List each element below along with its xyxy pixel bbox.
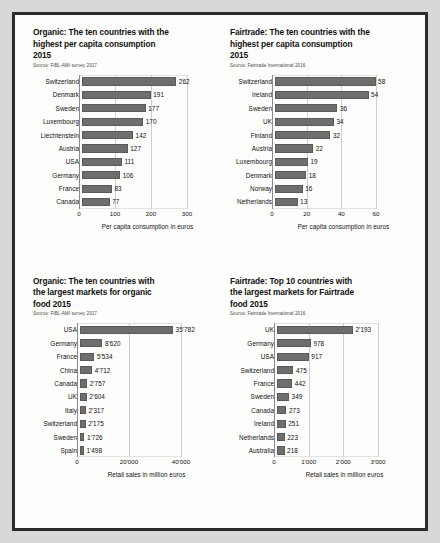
bar-value-label: 4'712 bbox=[92, 367, 110, 374]
bar bbox=[277, 366, 293, 374]
category-label: Norway bbox=[230, 185, 275, 192]
chart-title-line: Organic: The ten countries with the bbox=[33, 27, 216, 39]
bar-container: 978 bbox=[277, 337, 415, 350]
bar-row: Austria127 bbox=[33, 142, 216, 155]
bar-value-label: 170 bbox=[143, 118, 156, 125]
category-label: Switzerland bbox=[230, 78, 275, 85]
bar bbox=[275, 158, 308, 166]
bar bbox=[277, 433, 285, 441]
bar bbox=[277, 420, 286, 428]
x-tick-label: 0 bbox=[270, 210, 273, 217]
bar-container: 18 bbox=[275, 169, 415, 182]
category-label: Italy bbox=[33, 407, 80, 414]
bar bbox=[82, 118, 143, 126]
bar-container: 16 bbox=[275, 182, 415, 195]
bar-row: Germany106 bbox=[33, 169, 216, 182]
bar bbox=[277, 406, 286, 414]
category-label: Ireland bbox=[230, 420, 277, 427]
category-label: Canada bbox=[33, 380, 80, 387]
bar-value-label: 18 bbox=[306, 172, 316, 179]
x-axis-title: Retail sales in million euros bbox=[33, 471, 216, 478]
category-label: Denmark bbox=[33, 91, 82, 98]
bar bbox=[80, 326, 173, 334]
bar-container: 349 bbox=[277, 390, 415, 403]
bar-row: Sweden349 bbox=[230, 390, 415, 403]
x-axis: 020'00040'000 bbox=[33, 458, 216, 469]
bar-container: 223 bbox=[277, 430, 415, 443]
bar bbox=[82, 198, 110, 206]
bar-value-label: 127 bbox=[128, 145, 141, 152]
bar-row: Sweden36 bbox=[230, 102, 415, 115]
chart-title-line: Fairtrade: Top 10 countries with bbox=[230, 276, 415, 288]
x-tick-label: 0 bbox=[75, 458, 78, 465]
bar-container: 5'534 bbox=[80, 350, 216, 363]
bar bbox=[82, 185, 112, 193]
bar-row: Netherlands223 bbox=[230, 430, 415, 443]
bar-value-label: 35'782 bbox=[173, 326, 195, 333]
bar bbox=[82, 77, 176, 85]
bar-row: UK34 bbox=[230, 115, 415, 128]
bar-row: UK2'193 bbox=[230, 323, 415, 336]
bar bbox=[275, 77, 376, 85]
bar-container: 2'317 bbox=[80, 404, 216, 417]
category-label: Switzerland bbox=[230, 367, 277, 374]
bar-value-label: 2'317 bbox=[86, 407, 104, 414]
bar-value-label: 978 bbox=[311, 340, 324, 347]
bar-container: 106 bbox=[82, 169, 216, 182]
bar-value-label: 917 bbox=[309, 353, 322, 360]
x-tick-label: 200 bbox=[146, 210, 156, 217]
bar bbox=[275, 198, 298, 206]
category-label: France bbox=[230, 380, 277, 387]
x-tick-label: 20'000 bbox=[120, 458, 138, 465]
chart-source: Source: FiBL-AMI survey 2017 bbox=[33, 311, 216, 317]
bar-row: Sweden1'726 bbox=[33, 430, 216, 443]
bar-container: 8'620 bbox=[80, 337, 216, 350]
category-label: USA bbox=[230, 353, 277, 360]
chart-panel-fairtrade-markets: Fairtrade: Top 10 countries withthe larg… bbox=[220, 274, 419, 523]
bar-value-label: 83 bbox=[112, 185, 122, 192]
bar-row: France83 bbox=[33, 182, 216, 195]
chart-title-line: 2015 bbox=[230, 50, 415, 62]
bar bbox=[275, 118, 334, 126]
x-axis-title: Retail sales in million euros bbox=[230, 471, 415, 478]
bar-container: 36 bbox=[275, 102, 415, 115]
bar bbox=[275, 104, 337, 112]
bar-row: Netherlands13 bbox=[230, 195, 415, 208]
bar-value-label: 58 bbox=[376, 78, 386, 85]
category-label: Netherlands bbox=[230, 434, 277, 441]
category-label: Denmark bbox=[230, 172, 275, 179]
chart-title-line: food 2015 bbox=[33, 299, 216, 311]
chart-organic-per-capita: Switzerland262Denmark191Sweden177Luxembo… bbox=[33, 75, 216, 230]
bar bbox=[275, 91, 369, 99]
bar-row: Denmark18 bbox=[230, 169, 415, 182]
bar-row: France442 bbox=[230, 377, 415, 390]
chart-title-line: the largest markets for organic bbox=[33, 287, 216, 299]
bar-value-label: 19 bbox=[308, 158, 318, 165]
bar-container: 13 bbox=[275, 195, 415, 208]
chart-plot-area: USA35'782Germany8'620France5'534China4'7… bbox=[33, 323, 216, 457]
chart-panel-organic-markets: Organic: The ten countries withthe large… bbox=[21, 274, 220, 523]
x-tick-label: 40 bbox=[338, 210, 345, 217]
bar-row: Australia218 bbox=[230, 444, 415, 457]
bar bbox=[80, 353, 94, 361]
category-label: Ireland bbox=[230, 91, 275, 98]
category-label: Netherlands bbox=[230, 198, 275, 205]
bar-row: Finland32 bbox=[230, 128, 415, 141]
x-tick-label: 2'000 bbox=[336, 458, 351, 465]
bar-value-label: 54 bbox=[369, 91, 379, 98]
x-tick-label: 0 bbox=[77, 210, 80, 217]
bar-container: 251 bbox=[277, 417, 415, 430]
bar-value-label: 191 bbox=[151, 91, 164, 98]
bar-row: Germany8'620 bbox=[33, 337, 216, 350]
category-label: Finland bbox=[230, 132, 275, 139]
bar bbox=[80, 379, 87, 387]
chart-title: Fairtrade: Top 10 countries withthe larg… bbox=[230, 276, 415, 311]
bar bbox=[80, 339, 102, 347]
charts-grid: Organic: The ten countries with thehighe… bbox=[15, 15, 425, 528]
bar-row: Canada273 bbox=[230, 404, 415, 417]
bar-row: Italy2'317 bbox=[33, 404, 216, 417]
category-label: UK bbox=[230, 326, 277, 333]
bar-row: Switzerland262 bbox=[33, 75, 216, 88]
bar-row: Canada2'757 bbox=[33, 377, 216, 390]
category-label: Sweden bbox=[33, 434, 80, 441]
